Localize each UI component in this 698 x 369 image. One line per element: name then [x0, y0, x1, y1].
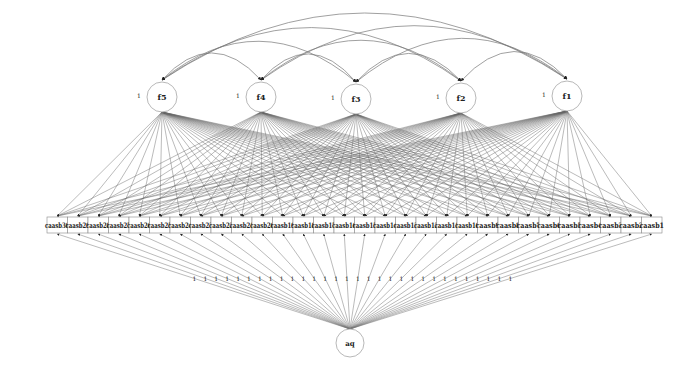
fixed-loading-label: 1 — [214, 275, 218, 282]
indicator-label: caasb1 — [640, 221, 665, 230]
fixed-loading-label: 1 — [367, 275, 371, 282]
factor-f2: f21 — [436, 83, 476, 113]
sem-path-diagram: 111111111111111111111111111111 caasb30ca… — [0, 0, 698, 369]
method-loading-path — [221, 234, 350, 329]
covariance-arc — [356, 53, 461, 82]
factor-label: f3 — [351, 94, 360, 104]
method-loading-path — [350, 234, 652, 329]
covariance-arc — [261, 54, 356, 82]
loading-path — [162, 112, 406, 216]
method-loading-path — [350, 234, 590, 329]
fixed-loading-label: 1 — [258, 275, 262, 282]
variance-label: 1 — [137, 92, 141, 99]
variance-label: 1 — [236, 92, 240, 99]
covariance-arcs — [162, 13, 567, 82]
fixed-loading-label: 1 — [508, 275, 512, 282]
loading-path — [78, 111, 567, 216]
covariance-arc — [461, 52, 567, 81]
loading-path — [139, 111, 567, 216]
factor-loadings — [57, 111, 652, 216]
variance-label: 1 — [331, 94, 335, 101]
nodes: caasb30caasb29caasb28caasb27caasb26caasb… — [45, 81, 664, 357]
fixed-loading-label: 1 — [203, 275, 207, 282]
loading-path — [567, 111, 570, 216]
fixed-loading-label: 1 — [291, 275, 295, 282]
method-loadings: 111111111111111111111111111111 — [57, 234, 652, 329]
method-factor-label: aq — [345, 339, 355, 348]
loading-path — [78, 113, 461, 216]
factor-f1: f11 — [542, 81, 582, 111]
factor-f3: f31 — [331, 84, 371, 114]
method-loading-path — [350, 234, 508, 329]
fixed-loading-label: 1 — [454, 275, 458, 282]
fixed-loading-label: 1 — [498, 275, 502, 282]
fixed-loading-label: 1 — [432, 275, 436, 282]
method-loading-path — [160, 234, 350, 329]
loading-path — [78, 112, 261, 216]
fixed-loading-label: 1 — [301, 275, 305, 282]
variance-label: 1 — [542, 91, 546, 98]
loading-path — [461, 113, 570, 216]
fixed-loading-label: 1 — [225, 275, 229, 282]
loading-path — [567, 111, 652, 216]
method-loading-path — [350, 234, 570, 329]
loading-path — [160, 112, 162, 216]
fixed-loading-label: 1 — [487, 275, 491, 282]
fixed-loading-label: 1 — [334, 275, 338, 282]
fixed-loading-label: 1 — [465, 275, 469, 282]
fixed-loading-label: 1 — [421, 275, 425, 282]
loading-path — [57, 112, 162, 216]
fixed-loading-label: 1 — [193, 275, 197, 282]
fixed-loading-label: 1 — [389, 275, 393, 282]
fixed-loading-label: 1 — [356, 275, 360, 282]
loading-path — [57, 112, 261, 216]
fixed-loading-label: 1 — [269, 275, 273, 282]
factor-aq: aq — [336, 329, 364, 357]
fixed-loading-label: 1 — [323, 275, 327, 282]
fixed-loading-label: 1 — [236, 275, 240, 282]
fixed-loading-label: 1 — [378, 275, 382, 282]
fixed-loading-label: 1 — [280, 275, 284, 282]
factor-label: f1 — [562, 91, 571, 101]
fixed-loading-label: 1 — [399, 275, 403, 282]
factor-f4: f41 — [236, 82, 276, 112]
fixed-loading-label: 1 — [410, 275, 414, 282]
loading-path — [221, 113, 461, 216]
loading-path — [98, 112, 261, 216]
loading-path — [406, 113, 461, 216]
method-loading-path — [139, 234, 350, 329]
covariance-arc — [162, 53, 261, 80]
variance-label: 1 — [436, 93, 440, 100]
fixed-loading-label: 1 — [312, 275, 316, 282]
factor-label: f2 — [456, 93, 465, 103]
fixed-loading-label: 1 — [476, 275, 480, 282]
indicator-caasb1: caasb1 — [640, 217, 665, 233]
factor-label: f4 — [256, 92, 265, 102]
fixed-loading-label: 1 — [443, 275, 447, 282]
factor-f5: f51 — [137, 82, 177, 112]
factor-label: f5 — [157, 92, 166, 102]
fixed-loading-label: 1 — [345, 275, 349, 282]
fixed-loading-label: 1 — [247, 275, 251, 282]
